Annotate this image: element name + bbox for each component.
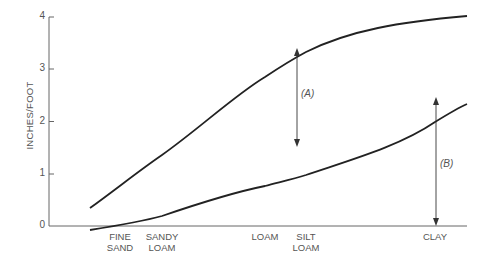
arrow-b	[433, 97, 439, 226]
category-label-silt-loam: SILT LOAM	[276, 231, 336, 253]
category-line: CLAY	[405, 231, 465, 242]
arrow-a	[294, 48, 300, 147]
category-line: LOAM	[132, 242, 192, 253]
y-tick-label-1: 1	[31, 167, 45, 178]
chart-figure: 4 3 2 1 0 INCHES/FOOT FINE SAND SANDY LO…	[0, 0, 477, 259]
category-line: LOAM	[276, 242, 336, 253]
chart-plot	[0, 0, 477, 259]
y-tick-label-4: 4	[31, 10, 45, 21]
category-line: SILT	[276, 231, 336, 242]
category-label-clay: CLAY	[405, 231, 465, 242]
annotation-b: (B)	[440, 158, 453, 169]
y-tick-label-0: 0	[31, 219, 45, 230]
y-axis-label: INCHES/FOOT	[24, 71, 35, 161]
category-label-sandy-loam: SANDY LOAM	[132, 231, 192, 253]
annotation-a: (A)	[301, 88, 314, 99]
category-line: SANDY	[132, 231, 192, 242]
y-ticks	[49, 17, 54, 174]
upper-curve	[90, 16, 467, 208]
